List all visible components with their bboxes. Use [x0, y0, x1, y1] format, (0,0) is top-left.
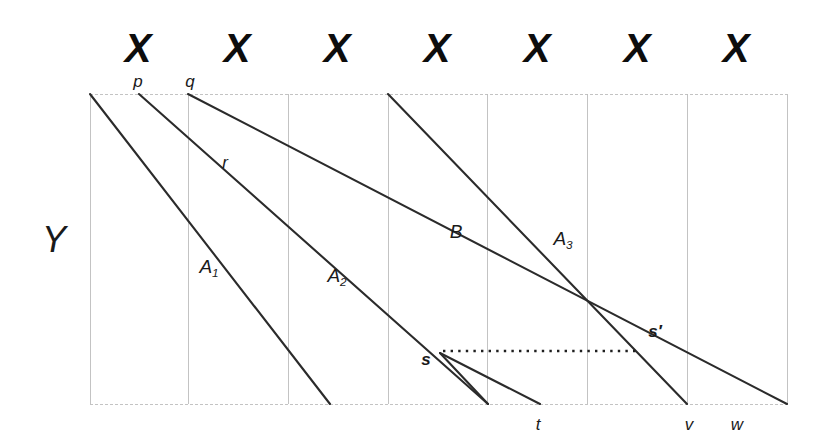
x-tick-1: X	[125, 28, 152, 68]
curve-label-base: A	[199, 256, 212, 277]
curve-label-A1: A1	[199, 257, 218, 278]
x-tick-7: X	[723, 28, 750, 68]
point-label-w: w	[731, 416, 743, 433]
point-label-p: p	[133, 73, 142, 90]
series-A3	[388, 94, 687, 404]
curve-label-A3: A3	[553, 229, 572, 250]
curve-label-subscript: 3	[566, 238, 573, 251]
curve-label-base: A	[553, 228, 566, 249]
point-label-v: v	[685, 416, 694, 433]
point-label-r: r	[222, 154, 228, 171]
curve-label-A2: A2	[327, 266, 346, 287]
series-s-to-q-drop	[440, 353, 488, 404]
grid-lines	[90, 94, 787, 404]
point-label-q: q	[185, 73, 194, 90]
curve-label-B: B	[450, 222, 463, 241]
x-tick-4: X	[424, 28, 451, 68]
x-tick-3: X	[324, 28, 351, 68]
series-s-to-t	[440, 353, 540, 404]
point-label-s-prime: s′	[648, 323, 662, 340]
series-lines	[90, 94, 787, 404]
series-A1	[90, 94, 330, 404]
figure-canvas: Y XXXXXXX pqrss′tvw A1A2A3B	[0, 0, 827, 447]
x-tick-2: X	[224, 28, 251, 68]
point-label-t: t	[536, 416, 541, 433]
curve-label-base: A	[327, 265, 340, 286]
series-B	[188, 94, 787, 404]
y-axis-label: Y	[42, 222, 66, 258]
series-A2	[139, 94, 488, 404]
curve-label-subscript: 2	[340, 275, 347, 288]
point-label-s: s	[421, 351, 430, 368]
curve-label-base: B	[450, 221, 463, 242]
x-tick-6: X	[624, 28, 651, 68]
x-tick-5: X	[524, 28, 551, 68]
curve-label-subscript: 1	[212, 266, 219, 279]
